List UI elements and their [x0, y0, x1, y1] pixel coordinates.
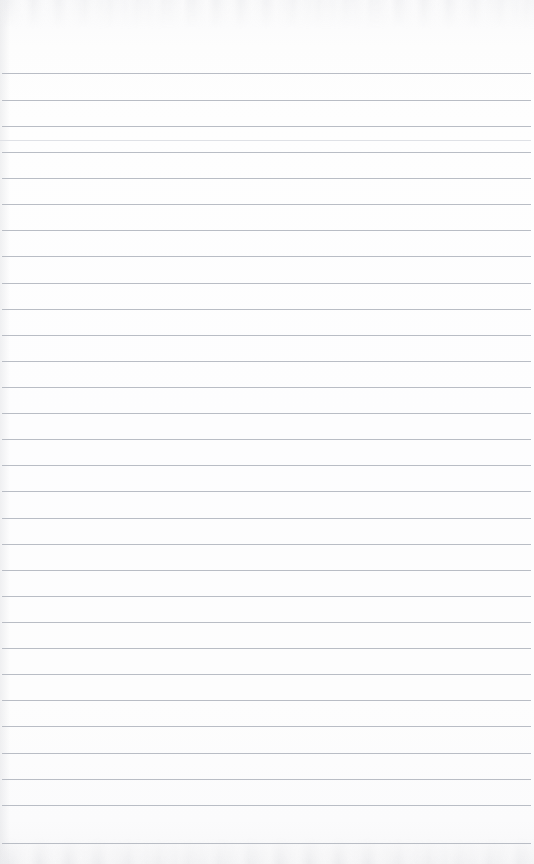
- writing-area[interactable]: [0, 0, 534, 864]
- notebook-page: [0, 0, 534, 864]
